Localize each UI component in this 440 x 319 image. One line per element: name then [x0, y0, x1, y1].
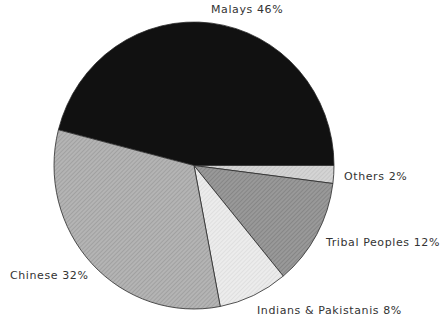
label-malays: Malays 46%	[211, 4, 283, 16]
label-indians-pakistanis: Indians & Pakistanis 8%	[257, 305, 402, 317]
label-others: Others 2%	[344, 171, 407, 183]
label-chinese: Chinese 32%	[10, 270, 89, 282]
label-tribal-peoples: Tribal Peoples 12%	[326, 237, 440, 249]
